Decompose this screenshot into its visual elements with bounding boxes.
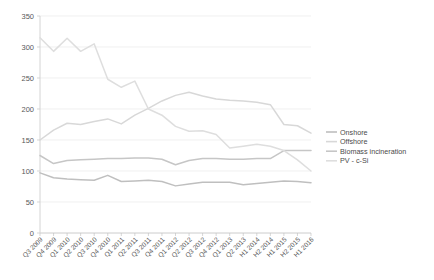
series-line-biomass-incineration — [40, 151, 311, 165]
y-axis-tick-label: 300 — [21, 43, 34, 52]
y-axis-tick-label: 250 — [21, 74, 34, 83]
legend-label-onshore: Onshore — [340, 128, 368, 137]
y-axis-tick-label: 200 — [21, 105, 34, 114]
chart-canvas: 050100150200250300350Q3 2009Q4 2009Q1 20… — [0, 0, 434, 280]
line-chart: 050100150200250300350Q3 2009Q4 2009Q1 20… — [0, 0, 434, 280]
legend-label-biomass-incineration: Biomass incineration — [340, 147, 406, 156]
series-line-offshore — [40, 92, 311, 140]
legend-label-offshore: Offshore — [340, 137, 367, 146]
y-axis-tick-label: 150 — [21, 136, 34, 145]
y-axis-tick-label: 50 — [26, 198, 34, 207]
legend-label-pv-c-si: PV - c-Si — [340, 156, 369, 165]
y-axis-tick-label: 100 — [21, 167, 34, 176]
y-axis-tick-label: 350 — [21, 12, 34, 21]
y-axis-tick-label: 0 — [30, 229, 34, 238]
series-line-onshore — [40, 173, 311, 186]
